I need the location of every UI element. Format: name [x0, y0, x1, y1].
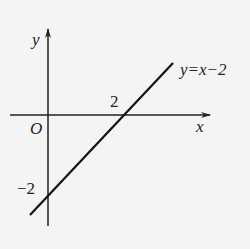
graph-line [30, 63, 173, 215]
y-intercept-label: −2 [17, 179, 35, 198]
line-equation-label: y=x−2 [178, 60, 227, 79]
coordinate-plane: y x O 2 −2 y=x−2 [0, 0, 250, 249]
x-axis-label: x [195, 117, 204, 136]
y-axis-label: y [30, 30, 40, 49]
x-intercept-label: 2 [110, 92, 119, 111]
origin-label: O [30, 119, 42, 138]
